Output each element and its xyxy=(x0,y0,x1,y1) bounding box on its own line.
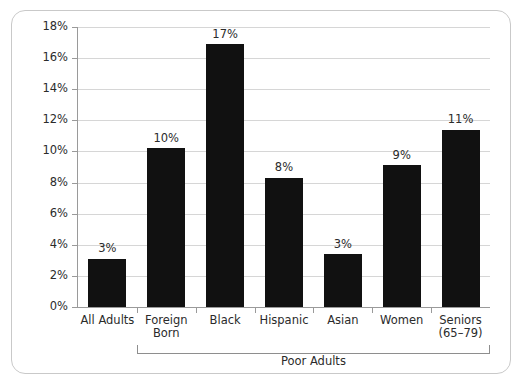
y-tick-label-4%: 4% xyxy=(24,239,68,251)
bar-value-label: 11% xyxy=(448,114,474,126)
y-tick-label-2%: 2% xyxy=(24,270,68,282)
x-tick-mark xyxy=(372,307,373,313)
x-tick-mark xyxy=(196,307,197,313)
category-label-seniors-65-79: Seniors(65–79) xyxy=(431,314,490,340)
category-label-line: Asian xyxy=(313,314,372,327)
bar-all-adults[interactable] xyxy=(88,259,126,307)
y-tick-label-10%: 10% xyxy=(24,145,68,157)
bar-seniors-65-79[interactable] xyxy=(442,130,480,307)
gridline-0% xyxy=(78,307,490,308)
category-label-line: Hispanic xyxy=(255,314,314,327)
y-tick-mark-14% xyxy=(72,89,77,90)
bar-slot: 17% xyxy=(196,27,255,307)
y-tick-mark-8% xyxy=(72,183,77,184)
y-tick-mark-10% xyxy=(72,151,77,152)
x-tick-mark xyxy=(255,307,256,313)
bar-slot: 8% xyxy=(255,27,314,307)
y-tick-mark-12% xyxy=(72,120,77,121)
y-tick-mark-16% xyxy=(72,58,77,59)
bar-foreign-born[interactable] xyxy=(147,148,185,307)
bar-slot: 3% xyxy=(313,27,372,307)
category-label-women: Women xyxy=(372,314,431,327)
bar-value-label: 17% xyxy=(212,29,238,41)
bar-value-label: 8% xyxy=(275,162,293,174)
bar-slot: 9% xyxy=(372,27,431,307)
y-tick-label-12%: 12% xyxy=(24,114,68,126)
bar-chart-figure: 0%2%4%6%8%10%12%14%16%18% 3%10%17%8%3%9%… xyxy=(0,0,522,384)
bar-asian[interactable] xyxy=(324,254,362,307)
group-label-poor-adults: Poor Adults xyxy=(137,355,490,368)
bar-value-label: 10% xyxy=(153,133,179,145)
bar-hispanic[interactable] xyxy=(265,178,303,307)
group-bracket-right-tick xyxy=(489,345,490,354)
category-label-line: Black xyxy=(196,314,255,327)
bar-black[interactable] xyxy=(206,44,244,307)
bar-value-label: 9% xyxy=(393,150,411,162)
bar-value-label: 3% xyxy=(98,243,116,255)
y-tick-label-18%: 18% xyxy=(24,21,68,33)
bar-slot: 3% xyxy=(78,27,137,307)
bar-slot: 11% xyxy=(431,27,490,307)
category-label-hispanic: Hispanic xyxy=(255,314,314,327)
y-tick-mark-4% xyxy=(72,245,77,246)
category-label-asian: Asian xyxy=(313,314,372,327)
x-tick-mark xyxy=(431,307,432,313)
y-tick-mark-18% xyxy=(72,27,77,28)
plot-area: 3%10%17%8%3%9%11% xyxy=(78,27,490,307)
category-label-line: Women xyxy=(372,314,431,327)
y-tick-mark-2% xyxy=(72,276,77,277)
y-tick-mark-6% xyxy=(72,214,77,215)
category-label-line: Born xyxy=(137,327,196,340)
bar-value-label: 3% xyxy=(334,239,352,251)
y-tick-label-0%: 0% xyxy=(24,301,68,313)
y-tick-label-14%: 14% xyxy=(24,83,68,95)
category-label-line: (65–79) xyxy=(431,327,490,340)
y-tick-label-8%: 8% xyxy=(24,177,68,189)
category-label-black: Black xyxy=(196,314,255,327)
x-tick-mark xyxy=(137,307,138,313)
category-label-foreign-born: ForeignBorn xyxy=(137,314,196,340)
y-tick-label-16%: 16% xyxy=(24,52,68,64)
category-label-line: All Adults xyxy=(78,314,137,327)
y-tick-mark-0% xyxy=(72,307,77,308)
group-bracket xyxy=(137,345,490,354)
bar-slot: 10% xyxy=(137,27,196,307)
category-label-all-adults: All Adults xyxy=(78,314,137,327)
x-tick-mark xyxy=(313,307,314,313)
bar-women[interactable] xyxy=(383,165,421,307)
y-tick-label-6%: 6% xyxy=(24,208,68,220)
